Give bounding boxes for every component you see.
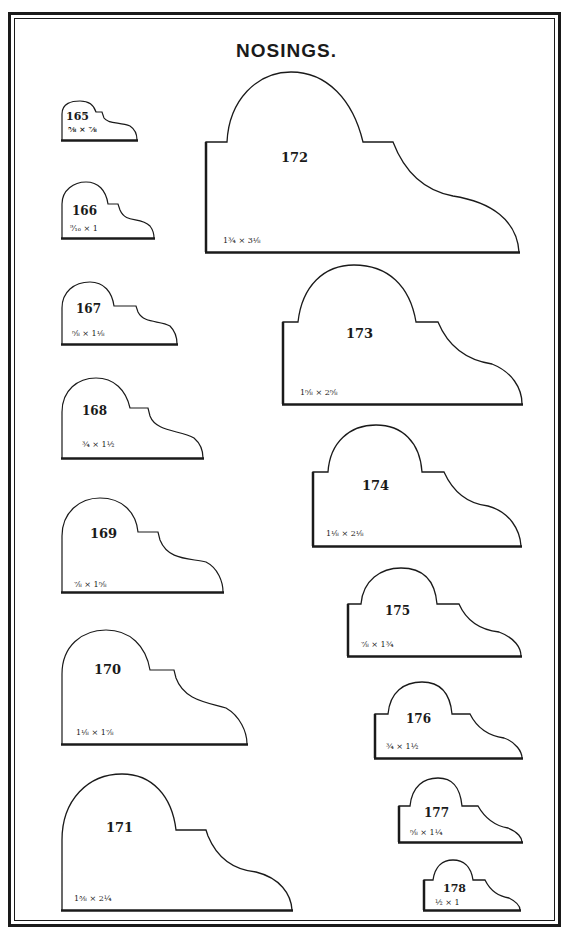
profile-171: 171 1⅜ × 2¼ — [60, 770, 300, 914]
profile-number: 169 — [90, 526, 117, 541]
profile-size: 1⅝ × 2⅝ — [300, 388, 337, 397]
profile-number: 170 — [94, 662, 121, 677]
profile-number: 178 — [443, 882, 466, 895]
profile-number: 173 — [346, 326, 373, 341]
profile-size: ⁹⁄₁₆ × 1 — [70, 224, 98, 233]
profile-size: ⅝ × 1¼ — [410, 828, 442, 837]
profile-172: 172 1¾ × 3⅛ — [203, 70, 523, 256]
running-head — [0, 0, 573, 10]
profile-size: ½ × 1 — [435, 898, 460, 907]
profile-177: 177 ⅝ × 1¼ — [396, 776, 524, 846]
nosing-outline — [203, 70, 523, 256]
profile-number: 168 — [82, 404, 107, 418]
profile-173: 173 1⅝ × 2⅝ — [280, 262, 526, 408]
profile-169: 169 ⅞ × 1⅝ — [60, 496, 228, 596]
profile-176: 176 ¾ × 1½ — [372, 680, 524, 762]
profile-170: 170 1⅛ × 1⅞ — [60, 628, 252, 748]
page-title: NOSINGS. — [0, 40, 573, 62]
profile-number: 166 — [72, 204, 97, 218]
nosing-outline — [60, 770, 300, 914]
profile-size: ⅝ × 1⅛ — [72, 329, 104, 338]
profile-number: 177 — [424, 806, 449, 820]
profile-size: ¾ × 1½ — [386, 742, 418, 751]
profile-number: 165 — [66, 110, 89, 123]
profile-size: ⅞ × 1⅝ — [74, 580, 106, 589]
profile-number: 176 — [406, 712, 431, 726]
profile-size: ¾ × 1½ — [82, 440, 114, 449]
profile-size: 1⅛ × 1⅞ — [76, 728, 113, 737]
profile-number: 174 — [362, 478, 389, 493]
profile-size: 1¾ × 3⅛ — [223, 236, 260, 245]
profile-number: 167 — [76, 302, 101, 316]
profile-number: 171 — [106, 820, 133, 835]
nosing-outline — [280, 262, 526, 408]
profile-166: 166 ⁹⁄₁₆ × 1 — [60, 180, 156, 242]
profile-size: 1⅛ × 2⅛ — [326, 529, 363, 538]
profile-number: 175 — [385, 604, 410, 618]
profile-165: 165 ⁹⁄₁₆ × 1 ⅝ × ⅞ — [60, 100, 140, 144]
profile-size: ⅝ × ⅞ — [68, 124, 97, 134]
profile-175: 175 ⅞ × 1¾ — [345, 566, 525, 660]
nosing-outline — [60, 376, 208, 462]
profile-168: 168 ¾ × 1½ — [60, 376, 208, 462]
profile-size: 1⅜ × 2¼ — [74, 894, 111, 903]
profile-number: 172 — [281, 150, 308, 165]
profile-178: 178 ½ × 1 — [421, 858, 523, 914]
profile-174: 174 1⅛ × 2⅛ — [310, 422, 526, 550]
profile-size: ⅞ × 1¾ — [361, 640, 393, 649]
profile-167: 167 ⅝ × 1⅛ — [60, 280, 182, 348]
